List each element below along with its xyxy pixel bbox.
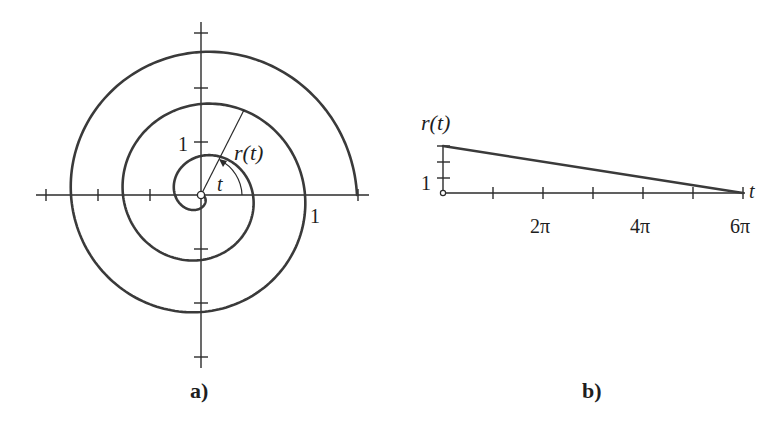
t-axis-label: t: [749, 180, 755, 202]
y-tick-label: 1: [178, 133, 188, 155]
spiral-curve: [71, 52, 357, 313]
r-tick-label: 1: [421, 172, 431, 194]
t-tick-label-4pi: 4π: [630, 215, 650, 237]
panel-b: r(t) t 1 2π 4π 6π b): [421, 110, 755, 403]
t-tick-label-2pi: 2π: [530, 215, 550, 237]
origin-marker: [197, 191, 204, 198]
panel-a: 1 1 r(t) t a): [36, 22, 369, 403]
caption-a: a): [190, 378, 208, 403]
figure-canvas: 1 1 r(t) t a) r(t) t 1 2π 4π: [0, 0, 783, 430]
radius-label: r(t): [234, 140, 263, 165]
angle-label: t: [217, 173, 223, 195]
caption-b: b): [582, 378, 602, 403]
t-tick-label-6pi: 6π: [730, 215, 750, 237]
r-axis-label: r(t): [421, 110, 450, 135]
x-tick-label: 1: [310, 205, 320, 227]
r-line: [443, 146, 743, 193]
origin-marker-b: [440, 190, 445, 195]
